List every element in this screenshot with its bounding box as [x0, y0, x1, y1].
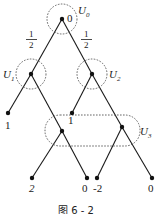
edge-n3-l3 — [32, 131, 62, 178]
edge-n4-l5 — [97, 127, 122, 178]
payoff-leaf-3: 2 — [29, 182, 35, 194]
payoff-leaf-2: 1 — [68, 114, 74, 126]
decision-node-n2 — [90, 72, 94, 76]
infoset-u2-label: U2 — [109, 68, 121, 83]
payoff-leaf-1: 1 — [5, 119, 11, 131]
decision-node-n1 — [29, 72, 33, 76]
information-sets — [16, 4, 140, 146]
infoset-u3-label: U3 — [140, 125, 152, 140]
edge-root-n1 — [31, 19, 62, 74]
leaf-node-l3 — [30, 176, 34, 180]
infoset-u0-label: U0 — [78, 4, 90, 19]
prob-right-fraction: 1 2 — [81, 29, 92, 50]
leaf-node-l6 — [150, 176, 154, 180]
decision-node-n4 — [120, 125, 124, 129]
infoset-u1-label: U1 — [3, 68, 14, 83]
leaf-node-l5 — [95, 176, 99, 180]
prob-right-denominator: 2 — [84, 40, 89, 50]
prob-right-numerator: 1 — [84, 29, 89, 39]
prob-left-numerator: 1 — [29, 29, 34, 39]
leaf-node-l4 — [85, 176, 89, 180]
game-tree-diagram: 0 U0 U1 U2 U3 1 2 1 2 1 1 2 0 -2 0 图 6 -… — [0, 0, 156, 214]
root-player-label: 0 — [67, 12, 73, 24]
figure-caption: 图 6 - 2 — [58, 205, 94, 214]
infoset-u3-box — [45, 115, 140, 146]
decision-node-root — [60, 17, 64, 21]
decision-node-n3 — [60, 129, 64, 133]
edge-n2-l2 — [72, 74, 92, 113]
leaf-node-l1 — [6, 111, 10, 115]
prob-left-fraction: 1 2 — [26, 29, 37, 50]
edge-n1-n3 — [31, 74, 62, 131]
payoff-leaf-4: 0 — [82, 182, 88, 194]
payoff-leaf-6: 0 — [148, 182, 154, 194]
payoff-leaf-5: -2 — [93, 182, 102, 194]
edge-n3-l4 — [62, 131, 87, 178]
prob-left-denominator: 2 — [29, 40, 34, 50]
